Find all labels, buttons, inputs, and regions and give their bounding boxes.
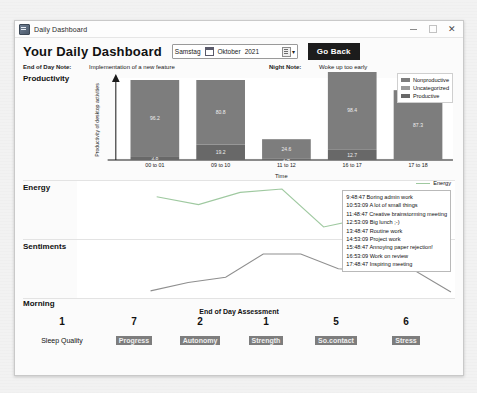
legend-swatch-uncategorized xyxy=(401,86,410,90)
date-year[interactable]: 2021 xyxy=(245,48,259,55)
window-title: Daily Dashboard xyxy=(34,26,87,33)
legend-swatch-productive xyxy=(401,94,410,98)
assessment-label: Progress xyxy=(116,336,152,345)
assessment-value: 1 xyxy=(23,316,101,329)
app-icon xyxy=(19,24,30,35)
assessment-value: 7 xyxy=(101,316,167,329)
assessment-section: End of Day Assessment 1Sleep Quality7Pro… xyxy=(15,308,463,351)
x-tick-label: 16 to 17 xyxy=(343,162,362,168)
assessment-label: Strength xyxy=(249,336,284,345)
event-list-item: 17:48:47 Inspiring meeting xyxy=(346,260,447,268)
x-tick-label: 09 to 10 xyxy=(211,162,230,168)
maximize-button[interactable] xyxy=(423,22,442,36)
event-list-item: 13:48:47 Routine work xyxy=(346,227,447,235)
end-of-day-note-label: End of Day Note: xyxy=(23,64,89,70)
page-title: Your Daily Dashboard xyxy=(23,44,162,59)
event-list-item: 14:53:09 Project work xyxy=(346,235,447,243)
minimize-button[interactable] xyxy=(404,22,423,36)
assessment-item[interactable]: 7Progress xyxy=(101,316,167,347)
y-axis-label: Productivity of desktop activities xyxy=(94,83,100,157)
legend-item-uncategorized: Uncategorized xyxy=(401,84,449,92)
bar-value-label: 87.3 xyxy=(413,122,423,128)
assessment-value: 2 xyxy=(167,316,233,329)
calendar-icon xyxy=(205,47,214,56)
assessment-item[interactable]: 5So.contact xyxy=(299,316,373,347)
section-label-productivity: Productivity xyxy=(15,72,77,83)
x-tick-label: 17 to 18 xyxy=(408,162,427,168)
assessment-item[interactable]: 6Stress xyxy=(373,316,439,347)
section-label-sentiments: Sentiments xyxy=(15,240,77,251)
end-of-day-note-value: Implementation of a new feature xyxy=(89,64,269,70)
event-list-item: 16:53:09 Work on review xyxy=(346,252,447,260)
event-list-item: 12:53:09 Big lunch ;-) xyxy=(346,218,447,226)
client-area: Your Daily Dashboard Samstag Oktober 202… xyxy=(15,38,463,376)
event-list-item: 11:48:47 Creative brainstorming meeting xyxy=(346,210,447,218)
x-tick-label: 00 to 01 xyxy=(145,162,164,168)
legend-label-nonproductive: Nonproductive xyxy=(413,76,449,84)
bar-value-label: 19.2 xyxy=(216,149,226,155)
energy-legend-line-icon xyxy=(416,183,430,184)
section-label-morning: Morning xyxy=(15,299,463,308)
date-spinner-icon[interactable] xyxy=(282,47,291,57)
go-back-button[interactable]: Go Back xyxy=(308,43,360,60)
x-tick-label: 11 to 12 xyxy=(277,162,296,168)
chart-legend: Nonproductive Uncategorized Productive xyxy=(397,73,453,103)
title-bar: Daily Dashboard ✕ xyxy=(15,21,463,38)
bar-value-label: 12.7 xyxy=(347,152,357,158)
assessment-label: So.contact xyxy=(315,336,357,345)
assessment-label: Stress xyxy=(392,336,419,345)
energy-event-list: 9:48:47 Boring admin work10:53:09 A lot … xyxy=(342,190,451,272)
assessment-item[interactable]: 1Sleep Quality xyxy=(23,316,101,347)
section-label-energy: Energy xyxy=(15,181,77,192)
assessment-value: 6 xyxy=(373,316,439,329)
assessment-title: End of Day Assessment xyxy=(23,308,455,315)
legend-item-productive: Productive xyxy=(401,92,449,100)
energy-section: Energy Energy 9:48:47 Boring admin work1… xyxy=(15,181,463,239)
bar-value-label: 96.2 xyxy=(150,115,160,121)
bar-value-label: 80.8 xyxy=(216,109,226,115)
app-window: Daily Dashboard ✕ Your Daily Dashboard S… xyxy=(14,20,464,376)
assessment-item[interactable]: 2Autonomy xyxy=(167,316,233,347)
event-list-item: 15:48:47 Annoying paper rejection! xyxy=(346,243,447,251)
date-weekday[interactable]: Samstag xyxy=(175,48,201,55)
date-picker[interactable]: Samstag Oktober 2021 ▾ xyxy=(172,44,298,59)
legend-label-uncategorized: Uncategorized xyxy=(413,84,449,92)
event-list-item: 9:48:47 Boring admin work xyxy=(346,193,447,201)
x-tick-group: 00 to 0109 to 1011 to 1216 to 1717 to 18 xyxy=(145,162,427,168)
assessment-value: 5 xyxy=(299,316,373,329)
x-axis-label: Time xyxy=(275,173,287,179)
bar-value-label: 98.4 xyxy=(347,107,357,113)
night-note-label: Night Note: xyxy=(269,64,319,70)
energy-chart[interactable]: Energy 9:48:47 Boring admin work10:53:09… xyxy=(77,181,455,239)
legend-item-nonproductive: Nonproductive xyxy=(401,76,449,84)
chevron-down-icon[interactable]: ▾ xyxy=(292,49,295,55)
energy-legend-label: Energy xyxy=(433,180,451,186)
close-icon[interactable]: ✕ xyxy=(442,22,461,36)
bar-value-label: 24.6 xyxy=(281,146,291,152)
assessment-label: Autonomy xyxy=(180,336,221,345)
window-controls: ✕ xyxy=(404,21,461,37)
energy-legend: Energy xyxy=(416,180,451,186)
legend-swatch-nonproductive xyxy=(401,78,410,82)
date-picker-controls[interactable]: ▾ xyxy=(282,47,295,57)
assessment-item[interactable]: 1Strength xyxy=(233,316,299,347)
header-row: Your Daily Dashboard Samstag Oktober 202… xyxy=(15,38,463,60)
assessment-label: Sleep Quality xyxy=(38,336,86,345)
productivity-chart[interactable]: 3.896.219.280.81.424.612.798.487.3 Produ… xyxy=(77,72,455,180)
legend-label-productive: Productive xyxy=(413,92,439,100)
event-list-item: 10:53:09 A lot of small things xyxy=(346,201,447,209)
productivity-section: Productivity 3.896.219.280.81.424.612.79… xyxy=(15,72,463,180)
assessment-value: 1 xyxy=(233,316,299,329)
assessment-grid: 1Sleep Quality7Progress2Autonomy1Strengt… xyxy=(23,316,455,347)
date-month[interactable]: Oktober xyxy=(218,48,241,55)
notes-row: End of Day Note: Implementation of a new… xyxy=(15,60,463,72)
night-note-value: Woke up too early xyxy=(319,64,455,70)
